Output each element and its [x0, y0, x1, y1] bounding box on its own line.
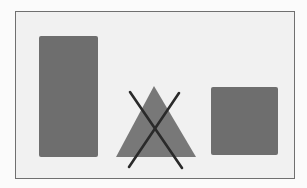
- triangle-shape: [116, 86, 196, 157]
- shapes-canvas: [0, 0, 307, 188]
- square-shape: [211, 87, 278, 155]
- tall-rectangle-shape: [39, 36, 98, 157]
